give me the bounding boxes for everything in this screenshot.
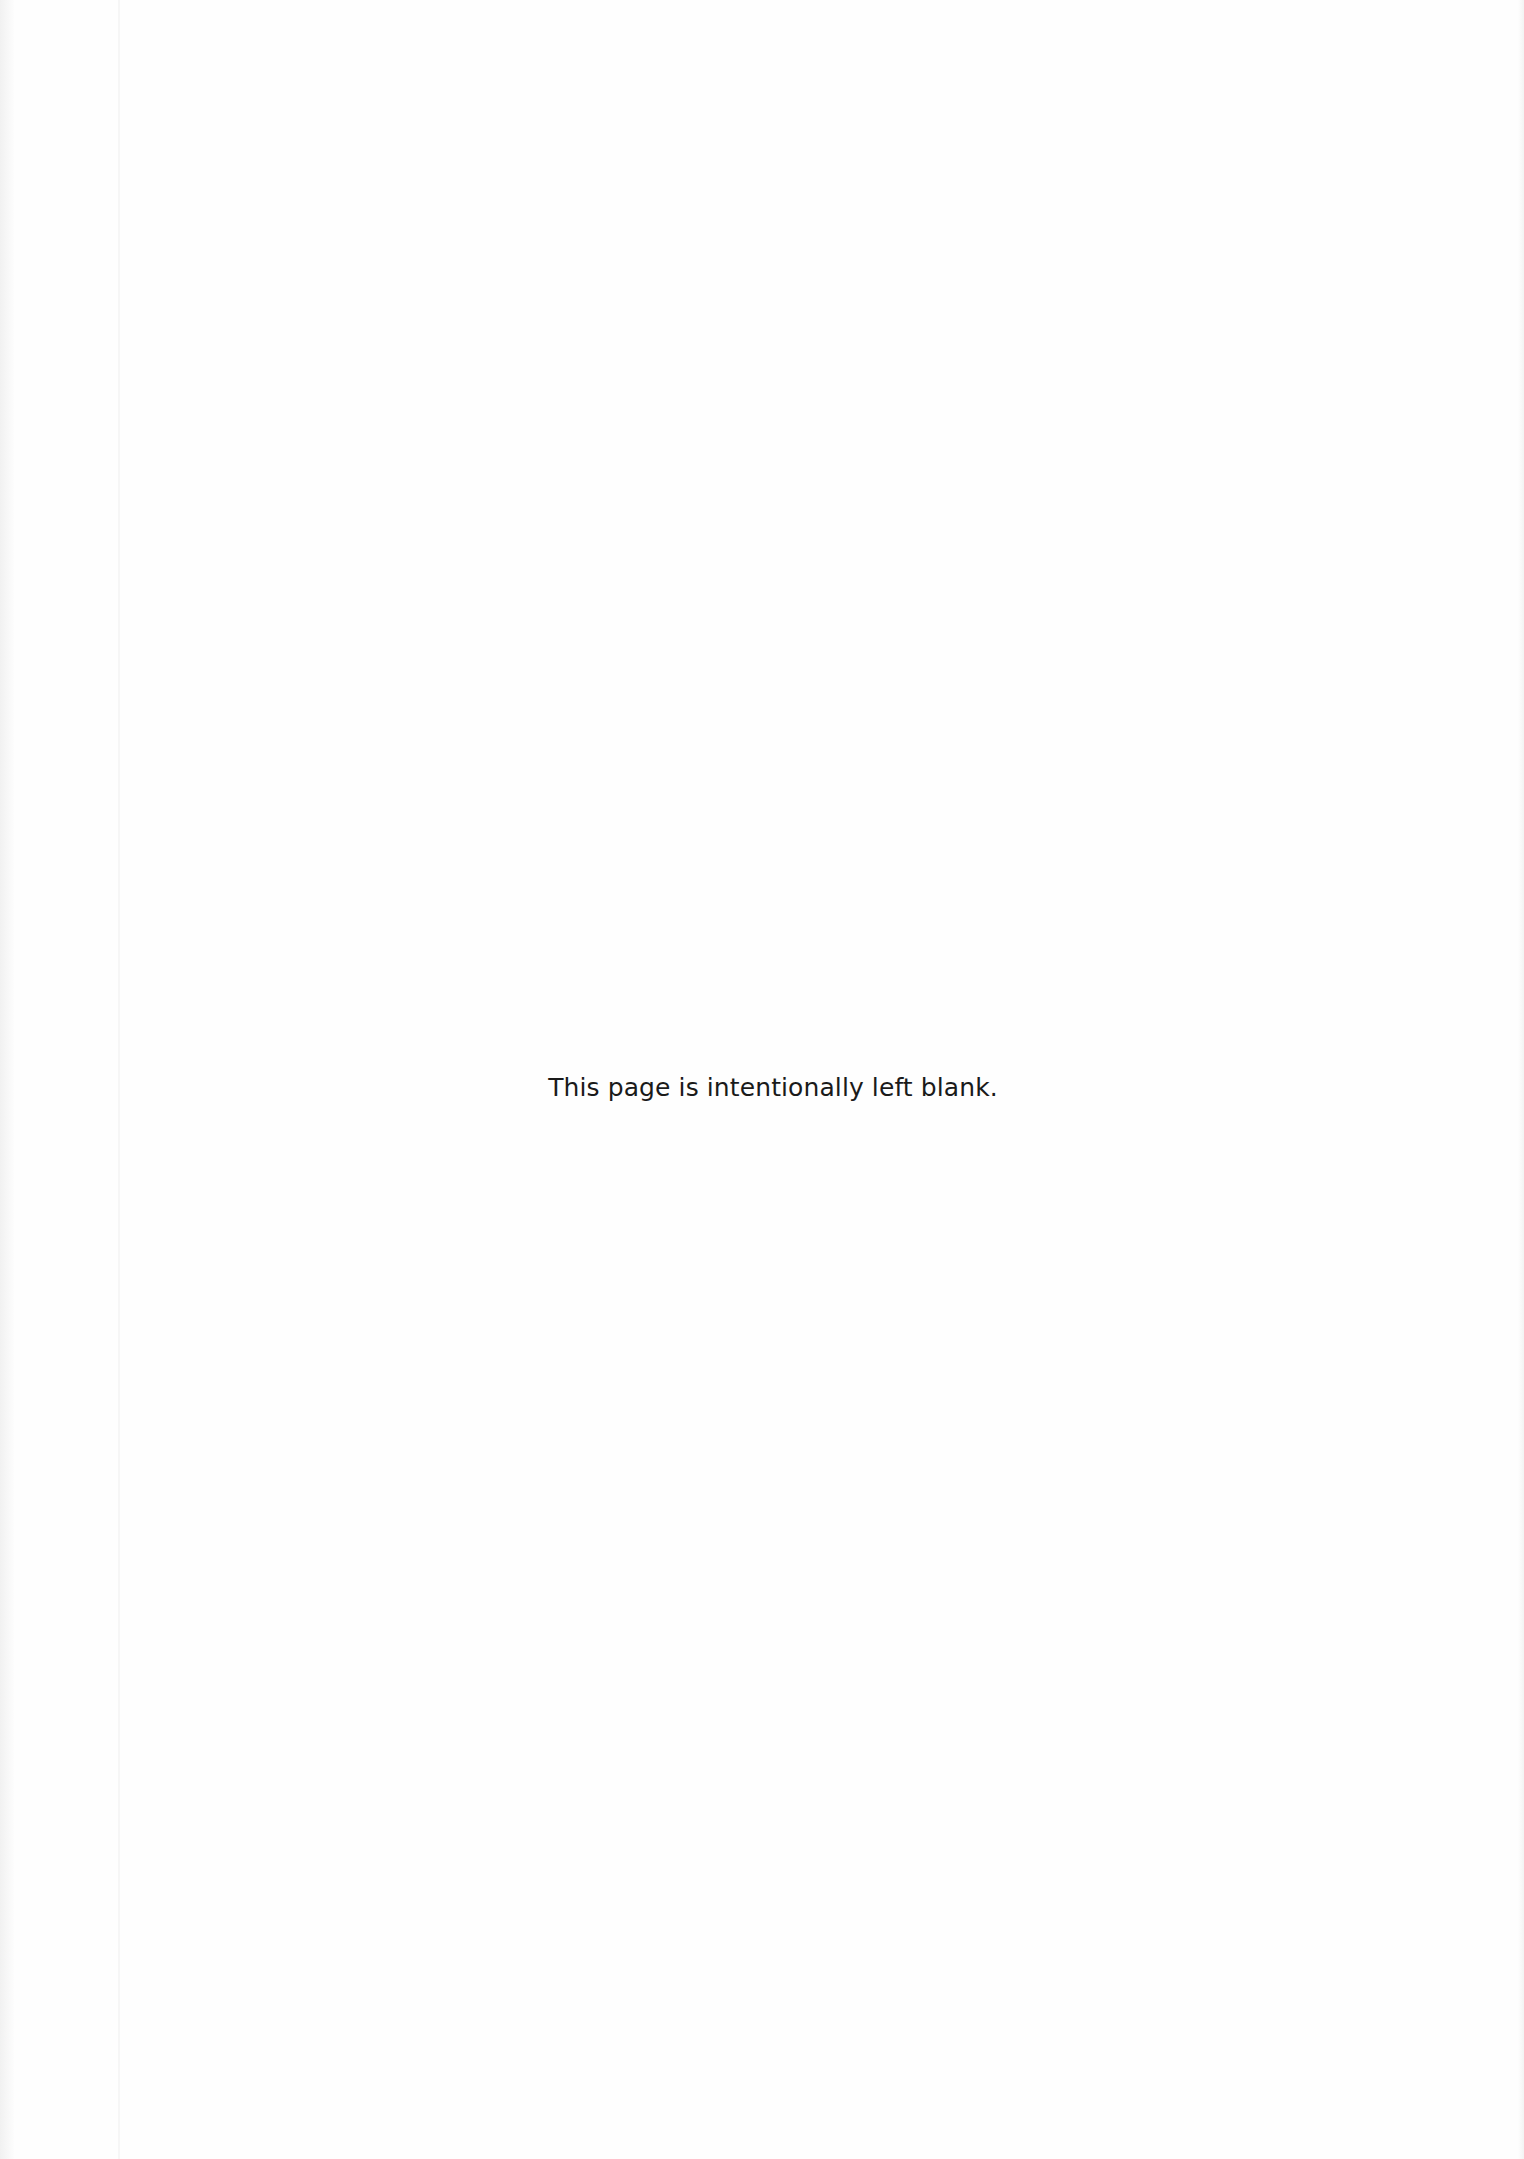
blank-page-notice: This page is intentionally left blank. [0,1070,1524,1106]
document-page: This page is intentionally left blank. [0,0,1524,2159]
